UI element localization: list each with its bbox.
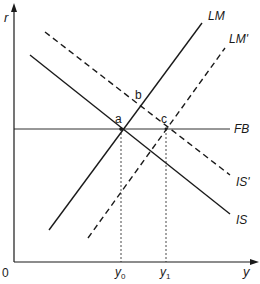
y1-label: y1: [159, 265, 171, 281]
point-a-marker: [119, 127, 123, 131]
x-axis-arrow-icon: [250, 259, 259, 265]
y-axis-arrow-icon: [11, 3, 17, 12]
point-b-label: b: [135, 88, 142, 102]
point-c-marker: [165, 128, 168, 131]
fb-label: FB: [234, 122, 249, 136]
is-prime-curve: [45, 32, 230, 175]
is-prime-label: IS': [236, 175, 250, 189]
point-c-label: c: [161, 112, 167, 126]
lm-prime-curve: [88, 48, 225, 238]
x-axis: [14, 259, 259, 265]
is-label: IS: [236, 213, 247, 227]
y0-label: y0: [114, 265, 126, 281]
y-axis: [11, 3, 17, 262]
lm-prime-label: LM': [229, 32, 249, 46]
is-curve: [30, 55, 230, 214]
is-lm-fb-diagram: r y 0 LM LM' FB IS' IS a b c y0 y1: [0, 0, 260, 284]
x-axis-label: y: [242, 264, 251, 279]
origin-label: 0: [2, 266, 9, 280]
lm-curve: [49, 23, 202, 230]
lm-label: LM: [208, 9, 225, 23]
y-axis-label: r: [4, 10, 9, 25]
point-a-label: a: [115, 112, 122, 126]
